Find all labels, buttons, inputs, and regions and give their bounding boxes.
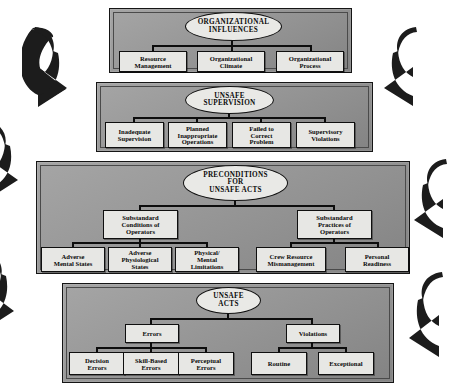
connector-horizontal: [150, 318, 312, 320]
node-line-2: Errors: [142, 364, 161, 371]
node-inadequate-supervision[interactable]: Inadequate Supervision: [105, 122, 164, 148]
arrow-left-top: [22, 23, 70, 107]
node-line-1: Perceptual: [191, 357, 221, 364]
tier-head-unsafe-acts: UNSAFE ACTS: [196, 287, 261, 314]
node-line-2: Physiological: [122, 256, 159, 263]
node-label: Errors: [143, 330, 162, 337]
node-line-2: Management: [135, 62, 172, 69]
node-line-3: States: [132, 263, 149, 270]
node-adverse-physiological-states[interactable]: Adverse Physiological States: [108, 247, 172, 272]
node-line-1: Adverse: [61, 253, 84, 260]
node-organizational-climate[interactable]: Organizational Climate: [197, 51, 265, 72]
node-label: Violations: [299, 330, 327, 337]
arrow-right-top: [373, 23, 429, 107]
node-line-1: Inadequate: [119, 128, 151, 135]
arrow-right-middle: [403, 155, 459, 239]
node-line-2: Violations: [311, 135, 339, 142]
node-line-2: Climate: [220, 62, 242, 69]
node-line-2: Errors: [88, 364, 107, 371]
tier-head-preconditions-for-unsafe-acts: PRECONDITIONS FOR UNSAFE ACTS: [183, 165, 288, 201]
connector-horizontal: [290, 242, 377, 244]
node-crew-resource-mismanagement[interactable]: Crew Resource Mismanagement: [256, 247, 326, 272]
node-planned-inappropriate-operations[interactable]: Planned Inappropriate Operations: [168, 122, 227, 148]
node-line-1: Crew Resource: [270, 253, 313, 260]
head-line-3: UNSAFE ACTS: [209, 186, 262, 194]
node-line-1: Adverse: [128, 249, 151, 256]
node-line-1: Personal: [365, 253, 390, 260]
node-line-2: Readiness: [363, 260, 391, 267]
node-adverse-mental-states[interactable]: Adverse Mental States: [41, 247, 105, 272]
node-exceptional[interactable]: Exceptional: [318, 352, 374, 375]
node-failed-to-correct-problem[interactable]: Failed to Correct Problem: [232, 122, 291, 148]
node-line-3: Problem: [249, 138, 273, 145]
node-line-3: Operators: [126, 228, 155, 235]
head-line-2: SUPERVISION: [203, 99, 255, 107]
node-line-2: Supervision: [118, 135, 151, 142]
node-line-1: Skill-Based: [135, 357, 167, 364]
node-line-2: Errors: [197, 364, 216, 371]
node-line-1: Resource: [140, 55, 166, 62]
node-line-2: Mental: [197, 256, 217, 263]
node-substandard-conditions-of-operators[interactable]: Substandard Conditions of Operators: [103, 210, 178, 239]
connector-horizontal: [139, 205, 334, 207]
node-routine[interactable]: Routine: [251, 352, 307, 375]
node-line-1: Planned: [186, 125, 209, 132]
node-line-1: Failed to: [249, 125, 274, 132]
tier-head-organizational-influences: ORGANIZATIONAL INFLUENCES: [185, 12, 282, 41]
tier-head-unsafe-supervision: UNSAFE SUPERVISION: [185, 86, 274, 114]
node-line-2: Process: [299, 62, 320, 69]
node-organizational-process[interactable]: Organizational Process: [276, 51, 344, 72]
head-line-2: ACTS: [218, 300, 238, 308]
node-substandard-practices-of-operators[interactable]: Substandard Practices of Operators: [297, 210, 372, 239]
node-skill-based-errors[interactable]: Skill-Based Errors: [123, 352, 179, 375]
node-violations[interactable]: Violations: [286, 324, 340, 343]
node-line-2: Practices of: [318, 221, 351, 228]
head-line-2: INFLUENCES: [209, 26, 258, 34]
node-line-2: Inappropriate: [178, 132, 218, 139]
connector-horizontal: [278, 347, 345, 349]
node-line-1: Decision: [85, 357, 109, 364]
node-line-2: Mental States: [54, 260, 93, 267]
node-physical-mental-limitations[interactable]: Physical/ Mental Limitations: [175, 247, 239, 272]
node-line-3: Operations: [182, 138, 214, 145]
node-resource-management[interactable]: Resource Management: [119, 51, 187, 72]
node-line-1: Organizational: [210, 55, 253, 62]
arrow-right-bottom: [399, 268, 455, 358]
node-line-1: Supervisory: [308, 128, 342, 135]
node-line-2: Conditions of: [122, 221, 160, 228]
node-line-3: Operators: [320, 228, 349, 235]
node-line-1: Physical/: [194, 249, 219, 256]
arrow-left-bottom: [0, 248, 14, 330]
node-line-1: Organizational: [289, 55, 332, 62]
node-errors[interactable]: Errors: [125, 324, 179, 343]
node-supervisory-violations[interactable]: Supervisory Violations: [296, 122, 355, 148]
node-line-2: Mismanagement: [268, 260, 315, 267]
node-line-1: Exceptional: [329, 360, 362, 367]
node-perceptual-errors[interactable]: Perceptual Errors: [178, 352, 234, 375]
hfacs-diagram: ORGANIZATIONAL INFLUENCES Resource Manag…: [0, 0, 466, 386]
node-line-3: Limitations: [191, 263, 224, 270]
connector-horizontal: [133, 117, 324, 119]
node-line-1: Routine: [268, 360, 290, 367]
node-line-1: Substandard: [316, 214, 352, 221]
node-decision-errors[interactable]: Decision Errors: [69, 352, 125, 375]
arrow-left-middle: [0, 118, 18, 198]
node-line-2: Correct: [251, 132, 273, 139]
node-line-1: Substandard: [122, 214, 158, 221]
